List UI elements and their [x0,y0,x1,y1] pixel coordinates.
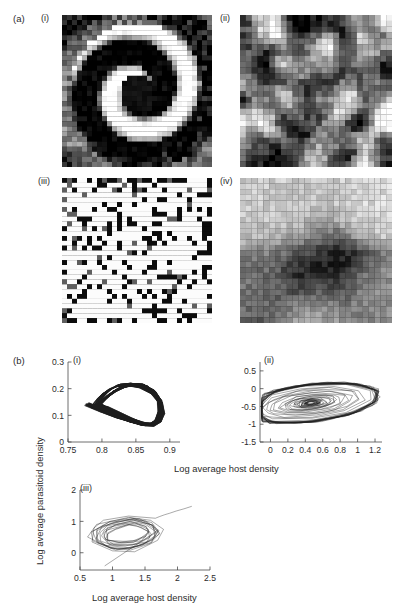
svg-text:-1: -1 [248,419,256,429]
svg-text:0.5: 0.5 [74,573,86,583]
panel-a-ii-label: (ii) [220,13,230,23]
svg-text:1: 1 [71,517,76,527]
figure-root: (a) (i) (ii) (iii) (iv) (b) Log average … [0,0,396,612]
svg-text:1.5: 1.5 [139,573,151,583]
panel-a-iv-label: (iv) [220,176,233,186]
svg-text:2.5: 2.5 [204,573,216,583]
spiral-wave-map [62,15,212,167]
svg-text:0.3: 0.3 [52,357,64,367]
svg-text:0.6: 0.6 [317,445,329,455]
phase-portrait-i: 0.750.80.850.900.10.20.3 [36,352,186,460]
svg-text:0.4: 0.4 [299,445,311,455]
svg-text:2: 2 [175,573,180,583]
svg-text:2: 2 [71,485,76,495]
svg-text:0.2: 0.2 [52,384,64,394]
phase-portrait-ii: 00.20.40.60.811.20.50-0.5-1-1.5 [226,352,388,460]
svg-text:0: 0 [268,445,273,455]
svg-text:0: 0 [71,548,76,558]
svg-text:0.9: 0.9 [164,445,176,455]
crystal-lattice-map [240,15,392,167]
svg-text:0.85: 0.85 [128,445,145,455]
part-b-label: (b) [13,355,25,366]
svg-text:0.5: 0.5 [244,366,256,376]
svg-text:0.1: 0.1 [52,411,64,421]
svg-text:1.2: 1.2 [369,445,381,455]
chaotic-speckle-map [62,178,212,323]
svg-text:0: 0 [59,437,64,447]
panel-a-i-label: (i) [41,13,49,23]
part-a-label: (a) [13,13,25,24]
x-axis-label-top: Log average host density [174,463,279,474]
svg-text:0.8: 0.8 [96,445,108,455]
svg-text:1: 1 [355,445,360,455]
svg-text:0.2: 0.2 [282,445,294,455]
x-axis-label-bottom: Log average host density [92,592,197,603]
panel-a-iii-label: (iii) [38,176,50,186]
phase-portrait-iii: 0.511.522.5012 [44,480,216,588]
svg-text:-1.5: -1.5 [241,437,256,447]
svg-text:0.8: 0.8 [334,445,346,455]
large-scale-blob-map [240,178,392,323]
svg-text:0: 0 [251,384,256,394]
svg-text:-0.5: -0.5 [241,402,256,412]
svg-text:1: 1 [110,573,115,583]
